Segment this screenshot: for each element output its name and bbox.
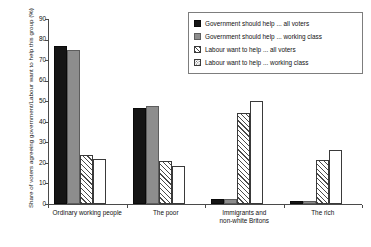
y-axis-tick-label: 10: [22, 180, 46, 186]
y-axis-tick-label: 80: [22, 36, 46, 42]
x-axis-label-line: Ordinary working people: [48, 209, 127, 217]
bar: [329, 150, 342, 204]
x-axis-label-line: Immigrants and: [205, 209, 284, 217]
x-axis-label-line: The poor: [127, 209, 206, 217]
y-axis-tick-mark: [45, 122, 48, 123]
x-axis-tick-mark: [127, 205, 128, 208]
bar: [316, 160, 329, 204]
legend-item[interactable]: Government should help ... working class: [194, 30, 357, 43]
y-axis-tick-mark: [45, 183, 48, 184]
bar-group: [133, 19, 185, 204]
bar: [290, 201, 303, 204]
legend-item[interactable]: Labour want to help ... all voters: [194, 43, 357, 56]
legend-item[interactable]: Government should help ... all voters: [194, 17, 357, 30]
x-axis-tick-mark: [205, 205, 206, 208]
y-axis-tick-mark: [45, 19, 48, 20]
y-axis-tick-label: 50: [22, 98, 46, 104]
bar: [67, 50, 80, 204]
legend-label: Labour want to help ... all voters: [205, 46, 296, 53]
y-axis-tick-label: 60: [22, 77, 46, 83]
y-axis-tick-label: 20: [22, 160, 46, 166]
y-axis-tick-label: 70: [22, 57, 46, 63]
y-axis-tick-label: 30: [22, 139, 46, 145]
x-axis-label: The poor: [127, 209, 206, 217]
y-axis-tick-mark: [45, 142, 48, 143]
x-axis-tick-mark: [48, 205, 49, 208]
bar: [133, 108, 146, 204]
bar: [211, 199, 224, 204]
bar: [54, 46, 67, 204]
legend-item[interactable]: Labour want to help ... working class: [194, 56, 357, 69]
x-axis-tick-mark: [362, 205, 363, 208]
legend-label: Government should help ... working class: [205, 33, 322, 40]
legend: Government should help ... all votersGov…: [188, 12, 363, 74]
x-axis-label-line: The rich: [284, 209, 363, 217]
bar: [80, 155, 93, 204]
bar: [303, 201, 316, 204]
x-axis-label: Ordinary working people: [48, 209, 127, 217]
legend-label: Labour want to help ... working class: [205, 59, 308, 66]
y-axis-tick-mark: [45, 101, 48, 102]
bar: [224, 199, 237, 204]
bar-chart: Share of voters agreeing government/Labo…: [0, 0, 371, 247]
y-axis-tick-label: 90: [22, 16, 46, 22]
y-axis-tick-mark: [45, 163, 48, 164]
bar: [237, 113, 250, 204]
y-axis-tick-mark: [45, 60, 48, 61]
legend-swatch-icon: [194, 46, 201, 53]
legend-swatch-icon: [194, 20, 201, 27]
x-axis-label: The rich: [284, 209, 363, 217]
bar: [159, 161, 172, 204]
y-axis-tick-label: 0: [22, 201, 46, 207]
bar: [250, 101, 263, 204]
bar: [172, 166, 185, 204]
x-axis-label: Immigrants andnon-white Britons: [205, 209, 284, 226]
legend-label: Government should help ... all voters: [205, 20, 309, 27]
x-axis-label-line: non-white Britons: [205, 217, 284, 225]
y-axis-tick-mark: [45, 40, 48, 41]
bar-group: [54, 19, 106, 204]
x-axis-tick-mark: [284, 205, 285, 208]
legend-swatch-icon: [194, 33, 201, 40]
bar: [93, 159, 106, 204]
y-axis-line: [48, 19, 49, 205]
y-axis-tick-mark: [45, 81, 48, 82]
bar: [146, 106, 159, 204]
legend-swatch-icon: [194, 59, 201, 66]
y-axis-tick-label: 40: [22, 119, 46, 125]
